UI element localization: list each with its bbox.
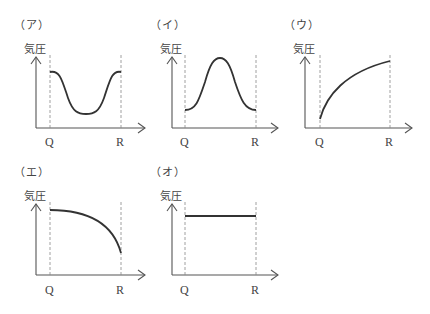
panel-o-graph <box>167 202 278 280</box>
panel-a-ylabel: 気圧 <box>24 40 46 56</box>
figure-canvas <box>0 0 430 314</box>
panel-a-graph <box>31 55 145 133</box>
panel-u-ylabel: 気圧 <box>293 40 315 56</box>
panel-i-ylabel: 気圧 <box>160 40 182 56</box>
panel-a-q-label: Q <box>45 135 54 150</box>
panel-a-r-label: R <box>116 135 124 150</box>
panel-o-ylabel: 気圧 <box>160 187 182 203</box>
panel-o-label: （オ） <box>150 163 186 179</box>
pressure-curve <box>50 210 121 253</box>
panel-e-ylabel: 気圧 <box>24 187 46 203</box>
panel-e-r-label: R <box>116 283 124 298</box>
panel-a-label: （ア） <box>14 16 50 32</box>
panel-i-q-label: Q <box>180 135 189 150</box>
panel-e-q-label: Q <box>45 283 54 298</box>
pressure-curve <box>320 61 390 119</box>
panel-e-graph <box>31 202 145 280</box>
panel-o-q-label: Q <box>180 283 189 298</box>
panel-o-r-label: R <box>251 283 259 298</box>
panel-u-label: （ウ） <box>284 16 320 32</box>
pressure-curve <box>50 72 121 114</box>
pressure-curve <box>185 58 256 110</box>
panel-u-r-label: R <box>385 135 393 150</box>
panel-u-graph <box>300 55 412 133</box>
panel-e-label: （エ） <box>14 163 50 179</box>
panel-i-graph <box>167 55 278 133</box>
panel-i-r-label: R <box>251 135 259 150</box>
panel-u-q-label: Q <box>315 135 324 150</box>
panel-i-label: （イ） <box>150 16 186 32</box>
